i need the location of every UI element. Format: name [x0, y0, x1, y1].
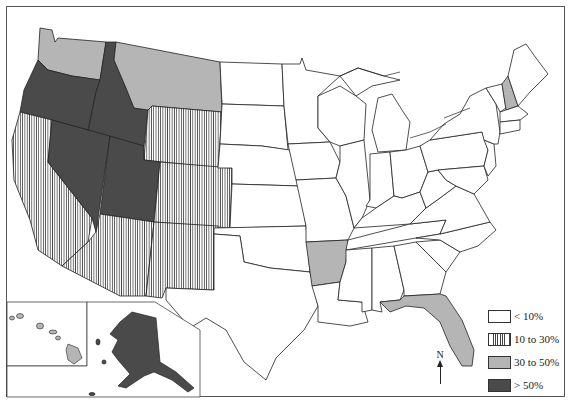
state-michigan-lp [372, 94, 410, 152]
north-label: N [433, 350, 447, 360]
legend-label: < 10% [514, 310, 543, 322]
state-northdakota [220, 62, 284, 106]
legend: < 10% 10 to 30% 30 to 50% > 50% [488, 308, 568, 400]
state-florida [380, 294, 474, 366]
legend-item-lt10: < 10% [488, 308, 568, 324]
state-southdakota [220, 104, 288, 150]
legend-swatch-lightgray [488, 356, 511, 369]
state-wisconsin [318, 86, 366, 146]
legend-item-30to50: 30 to 50% [488, 354, 568, 370]
state-wyoming [144, 106, 222, 168]
legend-item-gt50: > 50% [488, 377, 568, 393]
legend-swatch-darkgray [488, 379, 511, 392]
state-pennsylvania [420, 132, 488, 172]
legend-label: 10 to 30% [514, 333, 559, 345]
legend-label: > 50% [514, 379, 543, 391]
state-iowa [288, 142, 340, 180]
legend-item-10to30: 10 to 30% [488, 331, 568, 347]
state-newjersey [484, 140, 496, 176]
north-arrow: N [433, 350, 447, 384]
state-connecticut [500, 120, 520, 134]
legend-swatch-white [488, 310, 511, 323]
north-arrow-icon [440, 362, 441, 384]
state-kansas [230, 184, 306, 228]
state-newmexico [146, 222, 218, 298]
state-colorado [154, 162, 232, 228]
legend-label: 30 to 50% [514, 356, 559, 368]
legend-swatch-hatch [488, 333, 511, 346]
us-map [0, 0, 571, 412]
